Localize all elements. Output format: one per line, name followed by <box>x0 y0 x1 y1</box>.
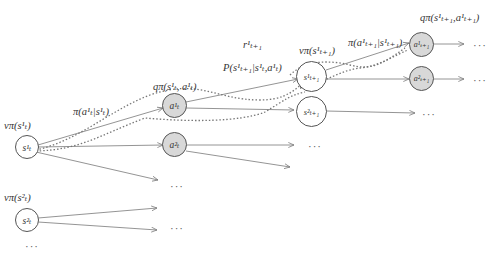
edge-s2t-1 <box>38 208 157 218</box>
policy-label-t1: π(a¹ₜ₊₁|s¹ₜ₊₁) <box>348 38 402 49</box>
action-node-a1-t1: a¹ₜ₊₁ <box>409 32 434 57</box>
state-value-label-s1: vπ(s¹ₜ) <box>4 121 31 132</box>
action-node-a1-t: a¹ₜ <box>162 93 187 118</box>
action-value-label-t: qπ(s¹ₜ, a¹ₜ) <box>153 82 197 93</box>
ellipsis-a1t1-branch: ··· <box>473 39 487 51</box>
action-value-label-t1: qπ(s¹ₜ₊₁,a¹ₜ₊₁) <box>420 13 479 24</box>
reward-label: r¹ₜ₊₁ <box>243 40 262 51</box>
ellipsis-s2-branch: ··· <box>170 222 184 234</box>
policy-label-t: π(a¹ₜ|s¹ₜ) <box>73 107 109 118</box>
state-node-s2-t: s²ₜ <box>15 208 39 232</box>
transition-prob-label: P(s¹ₜ₊₁|s¹ₜ,a¹ₜ) <box>223 63 282 74</box>
edge-a1t-s2t1 <box>186 108 294 110</box>
edge-s2t-2 <box>38 222 157 230</box>
edge-s1t-a2t <box>38 145 163 147</box>
action-node-a2-t: a²ₜ <box>162 132 187 157</box>
ellipsis-s2t1-branch: ··· <box>422 108 436 120</box>
state-node-s2-t1: s²ₜ₊₁ <box>296 96 327 127</box>
ellipsis-a2t1-branch: ··· <box>473 74 487 86</box>
state-node-s1-t1: s¹ₜ₊₁ <box>296 61 327 92</box>
state-value-label-t1: vπ(s¹ₜ₊₁) <box>299 46 335 57</box>
ellipsis-a-t-more: ··· <box>170 180 184 192</box>
action-node-a2-t1: a²ₜ₊₁ <box>409 66 434 91</box>
state-node-s1-t: s¹ₜ <box>15 135 39 159</box>
ellipsis-a2t-branch: ··· <box>308 140 322 152</box>
state-value-label-s2: vπ(s²ₜ) <box>4 193 31 204</box>
edge-s1t-more <box>36 152 158 180</box>
mdp-backup-diagram: vπ(s¹ₜ) vπ(s²ₜ) π(a¹ₜ|s¹ₜ) qπ(s¹ₜ, a¹ₜ) … <box>0 0 493 260</box>
ellipsis-more-states: ··· <box>25 240 39 252</box>
edge-a2t-more2 <box>186 151 290 167</box>
edge-s2t1-more <box>326 111 415 113</box>
